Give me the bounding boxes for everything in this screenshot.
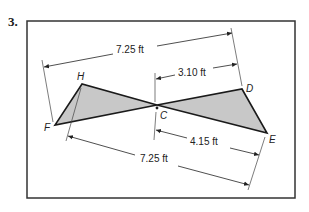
dimension-label-cd: 3.10 ft xyxy=(178,67,206,78)
point-c-dot xyxy=(156,107,159,110)
dimension-label-bottom: 7.25 ft xyxy=(140,153,168,164)
dimension-label-ce: 4.15 ft xyxy=(190,136,218,147)
vertex-label-c: C xyxy=(160,110,168,121)
triangle-HFC xyxy=(55,84,157,125)
vertex-label-d: D xyxy=(246,83,253,94)
triangle-CDE xyxy=(157,89,267,133)
vertex-label-e: E xyxy=(269,134,276,145)
geometry-figure: 7.25 ft 3.10 ft 4.15 ft 7.25 ft H F C D … xyxy=(0,0,309,212)
vertex-label-h: H xyxy=(77,71,85,82)
dimension-label-top: 7.25 ft xyxy=(116,44,144,55)
vertex-label-f: F xyxy=(44,122,51,133)
